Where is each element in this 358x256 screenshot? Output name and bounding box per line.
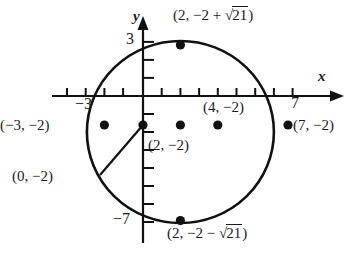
- label-top-prefix: (2, −2 +: [173, 7, 225, 23]
- label-y-axis-point: (0, −2): [12, 168, 53, 185]
- sqrt-icon: √21: [225, 7, 248, 24]
- point-top: [176, 40, 185, 49]
- y-tick-label-3: 3: [126, 30, 134, 48]
- label-bottom-radicand: 21: [226, 224, 242, 241]
- label-bottom-prefix: (2, −2 −: [167, 225, 219, 241]
- point-bottom: [176, 216, 185, 225]
- label-interior-point: (4, −2): [203, 99, 244, 116]
- point-right-intercept: [283, 120, 292, 129]
- sqrt-icon: √21: [219, 225, 242, 242]
- point-left-intercept: [100, 120, 109, 129]
- y-axis-ticks: [143, 42, 154, 222]
- label-center-point: (2, −2): [148, 137, 189, 154]
- point-interior: [213, 120, 222, 129]
- x-tick-label-neg3: −3: [75, 95, 92, 113]
- y-tick-label-neg7: −7: [113, 210, 130, 228]
- label-top-point: (2, −2 + √21): [173, 7, 253, 24]
- x-axis-arrow: [330, 91, 344, 102]
- point-y-axis: [138, 120, 147, 129]
- label-top-radicand: 21: [232, 6, 248, 23]
- label-left-intercept: (−3, −2): [0, 117, 49, 134]
- label-right-intercept: (7, −2): [293, 117, 334, 134]
- label-bottom-point: (2, −2 − √21): [167, 225, 247, 242]
- leader-line-y-axis-point: [100, 125, 143, 175]
- point-center: [176, 120, 185, 129]
- circle-curve: [87, 41, 274, 223]
- y-axis-label: y: [133, 8, 140, 25]
- x-axis-ticks: [67, 88, 293, 96]
- label-top-suffix: ): [248, 7, 253, 23]
- x-tick-label-7: 7: [291, 94, 299, 112]
- x-axis-label: x: [318, 68, 326, 85]
- label-bottom-suffix: ): [242, 225, 247, 241]
